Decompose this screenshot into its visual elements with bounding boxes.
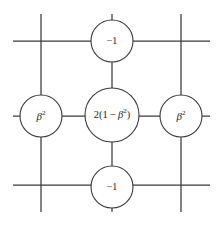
node-circle-bottom (91, 166, 133, 208)
node-circle-left (20, 95, 62, 137)
stencil-nodes (20, 20, 202, 208)
stencil-diagram (0, 0, 222, 225)
finite-difference-stencil-figure: −1 −1 β2 β2 2(1 − β2) (0, 0, 222, 225)
node-circle-center (85, 88, 139, 142)
node-circle-top (91, 20, 133, 62)
node-circle-right (160, 95, 202, 137)
